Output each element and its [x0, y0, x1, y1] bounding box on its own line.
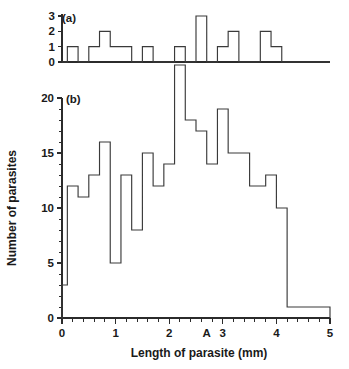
- panel-b-y-tick-label: 0: [48, 312, 54, 324]
- panel-b-y-tick-label: 10: [41, 202, 54, 214]
- panel-b-x-tick-label: 5: [327, 327, 334, 339]
- panel-a-y-tick-label: 1: [49, 41, 56, 53]
- panel-b-annotations: A: [203, 327, 211, 339]
- x-axis-title: Length of parasite (mm): [131, 346, 268, 360]
- x-axis-annotation-marker: A: [203, 327, 211, 339]
- panel-b-x-tick-label: 1: [112, 327, 119, 339]
- panel-b-x-tick-label: 0: [59, 327, 65, 339]
- figure-canvas: (a) 0123 (b) 05101520 012345 A Length of…: [0, 0, 349, 369]
- panel-a-y-tick-labels: 0123: [49, 10, 56, 68]
- panel-b-y-tick-label: 15: [41, 147, 54, 159]
- panel-a-y-tick-label: 0: [49, 56, 55, 68]
- panel-b-x-ticks: [62, 318, 330, 324]
- panel-b-x-tick-label: 4: [273, 327, 280, 339]
- panel-a-histogram-outline: [62, 16, 330, 62]
- panel-a: (a) 0123: [49, 10, 330, 68]
- panel-b-label: (b): [66, 93, 81, 105]
- panel-b-histogram-outline: [62, 65, 330, 318]
- panel-a-y-tick-label: 3: [49, 10, 55, 22]
- panel-b-y-ticks: [57, 98, 62, 318]
- parasite-length-histogram-figure: (a) 0123 (b) 05101520 012345 A Length of…: [0, 0, 349, 369]
- y-axis-title: Number of parasites: [5, 150, 19, 266]
- panel-b-x-tick-label: 2: [166, 327, 172, 339]
- panel-b-x-tick-labels: 012345: [59, 327, 334, 339]
- panel-b-y-tick-labels: 05101520: [41, 92, 54, 324]
- panel-a-y-tick-label: 2: [49, 25, 55, 37]
- panel-b-y-tick-label: 20: [41, 92, 54, 104]
- panel-b-y-tick-label: 5: [48, 257, 55, 269]
- panel-b-x-tick-label: 3: [220, 327, 226, 339]
- panel-a-label: (a): [62, 12, 76, 24]
- panel-b: (b) 05101520 012345 A Length of parasite…: [5, 65, 334, 360]
